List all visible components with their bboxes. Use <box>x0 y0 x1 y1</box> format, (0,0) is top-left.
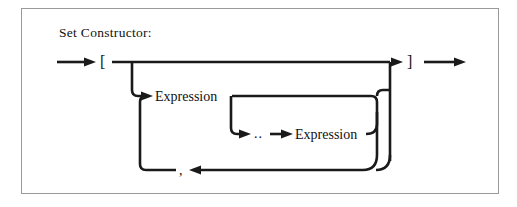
open-bracket-token: [ <box>100 53 105 70</box>
exit-arrowhead-icon <box>454 58 466 67</box>
loop-back-left-rail <box>140 96 176 170</box>
exit-arrow-group <box>424 58 466 67</box>
range-operator-arrowhead-icon <box>239 130 251 139</box>
range-branch-group <box>231 96 251 139</box>
entry-arrow-group <box>57 58 96 67</box>
close-bracket-arrowhead-icon <box>391 58 403 67</box>
diagram-page: Set Constructor: [ ] Expression <box>0 0 517 207</box>
railroad-diagram: Set Constructor: [ ] Expression <box>0 0 517 207</box>
expression-second-exit-rail <box>366 112 377 134</box>
expression-first-label: Expression <box>155 89 217 104</box>
diagram-title: Set Constructor: <box>59 25 152 40</box>
left-branch-group <box>132 62 153 101</box>
range-branch-down-rail <box>231 96 242 134</box>
range-operator-token: .. <box>254 126 263 141</box>
expression-first-to-outer-rail <box>377 90 390 96</box>
entry-arrowhead-icon <box>84 58 96 67</box>
top-rail-group <box>112 58 403 67</box>
expression-second-label: Expression <box>295 127 357 142</box>
range-to-expression-group <box>270 130 293 139</box>
close-bracket-token: ] <box>407 53 412 70</box>
left-branch-down-rail <box>132 62 144 96</box>
expression-second-arrowhead-icon <box>281 130 293 139</box>
separator-comma-token: , <box>179 163 184 178</box>
loop-back-arrowhead-icon <box>189 166 201 175</box>
expression-first-exit-rail <box>232 96 377 112</box>
expression-first-exit-group <box>232 96 377 112</box>
